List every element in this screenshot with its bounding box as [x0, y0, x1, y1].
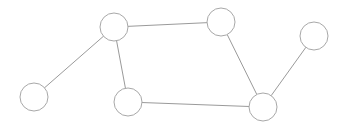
graph-node-n3 [207, 8, 235, 36]
graph-node-n5 [114, 88, 142, 116]
edges-layer [34, 22, 314, 107]
edge-n2-n3 [114, 22, 221, 27]
graph-canvas [0, 0, 345, 129]
graph-node-n6 [249, 93, 277, 121]
graph-node-n1 [20, 83, 48, 111]
edge-n5-n6 [128, 102, 263, 107]
graph-node-n2 [100, 13, 128, 41]
edge-n1-n2 [34, 27, 114, 97]
graph-node-n4 [300, 22, 328, 50]
